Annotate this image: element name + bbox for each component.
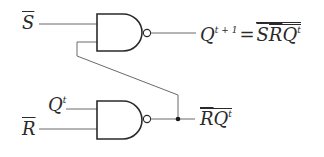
bottom-superscript: t <box>228 109 232 119</box>
input-label-s-bar: S <box>22 14 34 32</box>
formula-rhs-outer-bar: SRQt <box>256 22 300 44</box>
q-symbol: Q <box>48 94 63 115</box>
formula-rhs-superscript: t <box>297 25 301 35</box>
s-symbol: S <box>22 12 34 33</box>
inversion-bubble-bottom-icon <box>143 115 150 122</box>
formula-lhs: Q <box>200 24 215 45</box>
junction-dot-icon <box>176 117 181 122</box>
top-output-formula: Qt + 1=SRQt <box>200 22 301 44</box>
input-label-r-bar: R <box>22 120 36 138</box>
formula-rhs-inner-bar: RQt <box>269 24 301 44</box>
nand-gate-bottom-icon <box>97 101 142 139</box>
bottom-term-q: Q <box>214 108 229 129</box>
formula-term-q: Q <box>282 24 297 45</box>
formula-lhs-superscript: t + 1 <box>215 25 238 35</box>
input-label-q-t: Qt <box>48 96 66 114</box>
bottom-output-bar: RQt <box>200 108 232 128</box>
bottom-term-r: R <box>200 108 214 129</box>
bottom-output-label: RQt <box>200 108 232 128</box>
inversion-bubble-top-icon <box>143 29 150 36</box>
q-superscript: t <box>63 95 67 105</box>
nand-gate-top-icon <box>97 14 142 51</box>
formula-equals: = <box>239 24 254 45</box>
r-symbol: R <box>22 118 36 139</box>
formula-term-s: S <box>256 24 268 45</box>
formula-term-r: R <box>269 24 283 45</box>
